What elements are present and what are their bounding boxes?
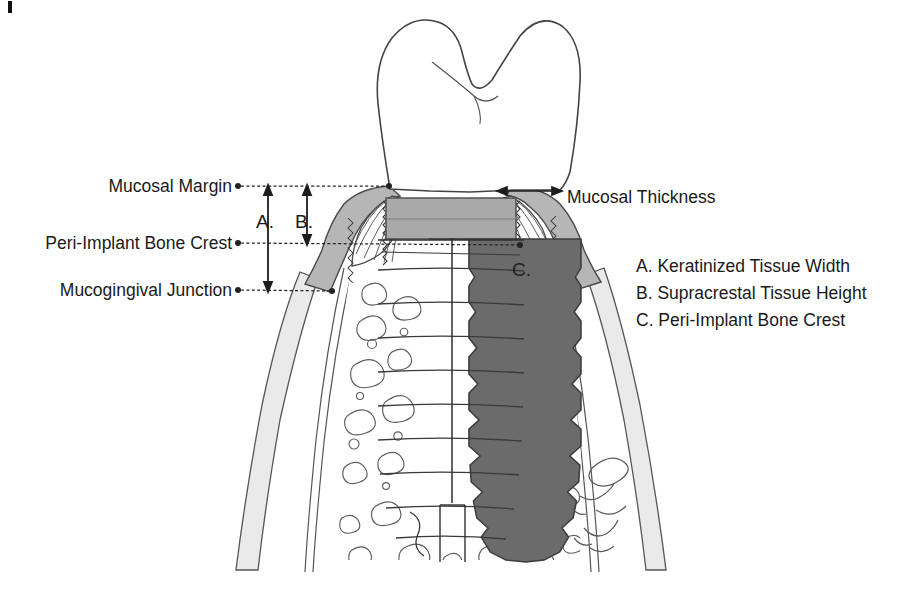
figure-root: Mucosal Margin Peri-Implant Bone Crest M… [0,0,901,593]
anchor-dot-mucosal-margin [386,183,392,189]
anchor-dot-mgj [329,288,335,294]
dental-diagram: Mucosal Margin Peri-Implant Bone Crest M… [0,0,901,593]
crest-marker-letter-c: C. [512,259,531,280]
legend-item-b: B. Supracrestal Tissue Height [636,283,867,303]
measure-letter-b: B. [295,211,313,232]
leader-dot-bone-crest [235,240,241,246]
label-mucosal-thickness: Mucosal Thickness [567,187,716,207]
label-mucogingival-junction: Mucogingival Junction [60,280,232,300]
anchor-dot-bone-crest [517,242,523,248]
legend-item-a: A. Keratinized Tissue Width [636,256,850,276]
label-mucosal-margin: Mucosal Margin [108,176,232,196]
leader-dot-mucosal-margin [235,183,241,189]
leader-dot-mgj [235,287,241,293]
legend-item-c: C. Peri-Implant Bone Crest [636,310,845,330]
measure-letter-a: A. [256,211,274,232]
abutment [386,198,516,239]
page-scan-artifact [8,1,12,13]
label-peri-implant-bone-crest: Peri-Implant Bone Crest [45,233,232,253]
